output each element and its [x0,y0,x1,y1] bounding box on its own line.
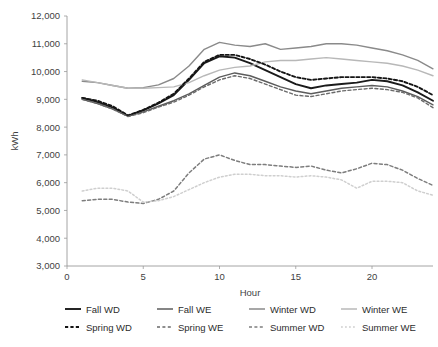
legend-item-summer-wd[interactable]: Summer WD [248,322,340,333]
y-axis-tick-label: 4,000 [36,233,60,244]
legend-swatch-icon [156,322,174,332]
legend-swatch-icon [248,304,266,314]
series-line-fall-we [82,73,433,116]
legend-item-fall-we[interactable]: Fall WE [156,304,248,315]
legend-item-label: Winter WD [270,304,316,315]
y-axis-tick-label: 6,000 [36,177,60,188]
legend-item-label: Summer WE [362,322,416,333]
series-line-spring-we [82,76,433,117]
legend-item-winter-we[interactable]: Winter WE [340,304,432,315]
legend-item-label: Fall WD [86,304,120,315]
series-line-summer-wd [82,155,433,204]
legend-item-winter-wd[interactable]: Winter WD [248,304,340,315]
legend-item-fall-wd[interactable]: Fall WD [64,304,156,315]
x-axis-tick-label: 5 [141,271,146,282]
x-axis-tick-label: 20 [367,271,378,282]
legend-item-label: Spring WD [86,322,132,333]
plot-area: 3,0004,0005,0006,0007,0008,0009,00010,00… [0,0,438,300]
x-axis-tick-label: 10 [214,271,225,282]
legend-swatch-icon [156,304,174,314]
chart-legend: Fall WDFall WEWinter WDWinter WESpring W… [64,300,432,336]
y-axis-tick-label: 3,000 [36,260,60,271]
y-axis-title: kWh [9,132,20,151]
y-axis-tick-label: 12,000 [31,10,60,21]
legend-item-label: Summer WD [270,322,324,333]
x-axis-tick-label: 0 [64,271,69,282]
energy-usage-line-chart: 3,0004,0005,0006,0007,0008,0009,00010,00… [0,0,438,347]
x-axis-title: Hour [240,287,261,298]
legend-swatch-icon [64,304,82,314]
series-line-summer-we [82,174,433,202]
legend-item-spring-we[interactable]: Spring WE [156,322,248,333]
legend-swatch-icon [340,304,358,314]
y-axis-tick-label: 9,000 [36,94,60,105]
legend-item-spring-wd[interactable]: Spring WD [64,322,156,333]
y-axis-tick-label: 10,000 [31,66,60,77]
y-axis-tick-label: 5,000 [36,205,60,216]
legend-item-label: Fall WE [178,304,211,315]
x-axis-tick-label: 15 [290,271,301,282]
legend-item-summer-we[interactable]: Summer WE [340,322,432,333]
legend-item-label: Spring WE [178,322,223,333]
legend-item-label: Winter WE [362,304,407,315]
y-axis-tick-label: 8,000 [36,122,60,133]
legend-swatch-icon [248,322,266,332]
legend-swatch-icon [64,322,82,332]
y-axis-tick-label: 7,000 [36,149,60,160]
legend-swatch-icon [340,322,358,332]
y-axis-tick-label: 11,000 [32,38,60,49]
